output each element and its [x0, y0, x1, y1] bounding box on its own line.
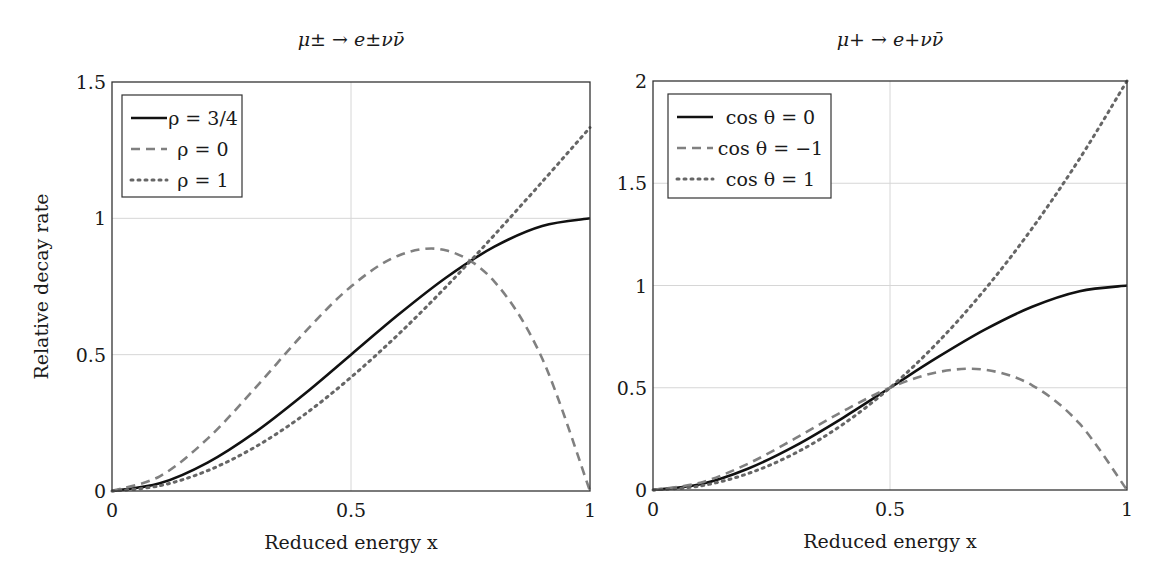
- chart-title: μ± → e±νν̄: [298, 28, 405, 50]
- y-tick-label: 1.5: [617, 172, 647, 194]
- legend-label: cos θ = −1: [718, 137, 823, 159]
- x-tick-label: 0.5: [336, 499, 366, 521]
- legend: cos θ = 0cos θ = −1cos θ = 1: [668, 94, 831, 198]
- figure: 00.5100.511.5μ± → e±νν̄Reduced energy xR…: [0, 0, 1164, 581]
- legend-label: ρ = 3/4: [168, 107, 238, 129]
- x-tick-label: 1: [584, 499, 596, 521]
- legend-label: cos θ = 1: [726, 168, 815, 190]
- y-tick-label: 0: [635, 479, 647, 501]
- y-tick-label: 0.5: [76, 344, 106, 366]
- y-tick-label: 2: [635, 70, 647, 92]
- legend-label: cos θ = 0: [726, 106, 815, 128]
- y-tick-labels: 00.511.52: [617, 70, 647, 501]
- y-tick-label: 0.5: [617, 377, 647, 399]
- x-axis-label: Reduced energy x: [264, 531, 438, 553]
- chart-title: μ+ → e+νν̄: [837, 28, 944, 50]
- x-tick-label: 0: [647, 498, 659, 520]
- y-tick-label: 1.5: [76, 71, 106, 93]
- y-tick-label: 1: [94, 207, 106, 229]
- y-tick-label: 1: [635, 275, 647, 297]
- chart-panel-2: 00.5100.511.52μ+ → e+νν̄Reduced energy x…: [617, 28, 1133, 552]
- x-tick-label: 1: [1121, 498, 1133, 520]
- y-axis-label: Relative decay rate: [30, 193, 52, 379]
- x-tick-label: 0.5: [875, 498, 905, 520]
- y-tick-labels: 00.511.5: [76, 71, 106, 502]
- x-tick-labels: 00.51: [647, 498, 1133, 520]
- legend-label: ρ = 0: [177, 138, 228, 160]
- legend-label: ρ = 1: [177, 169, 228, 191]
- x-tick-labels: 00.51: [106, 499, 596, 521]
- x-axis-label: Reduced energy x: [803, 530, 977, 552]
- x-tick-label: 0: [106, 499, 118, 521]
- y-tick-label: 0: [94, 480, 106, 502]
- chart-panel-1: 00.5100.511.5μ± → e±νν̄Reduced energy xR…: [30, 28, 596, 553]
- legend: ρ = 3/4ρ = 0ρ = 1: [122, 95, 242, 197]
